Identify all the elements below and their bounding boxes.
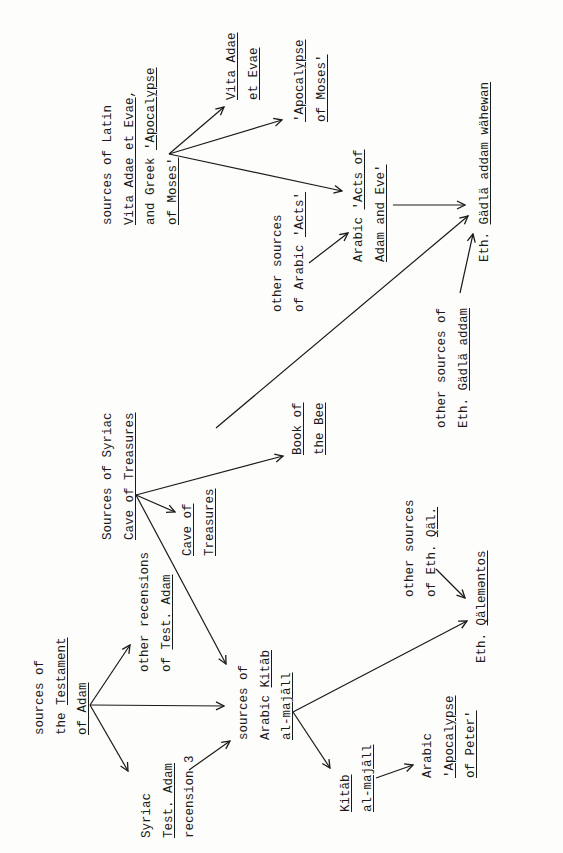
underlined-title: of Moses' [166, 157, 180, 225]
node-line: other sources [268, 192, 290, 312]
stemma-diagram: sources ofthe Testamentof AdamSyriacTest… [0, 0, 563, 853]
node-text: Sources of Syriac [101, 412, 115, 540]
node-line: of Moses' [163, 67, 185, 225]
node-line: other sources [400, 499, 422, 597]
node-line: Sources of Syriac [98, 412, 120, 540]
node-line: Arabic Kitāb [256, 650, 278, 740]
arrow-other-sources-gadla-to-eth-gadla [460, 234, 473, 293]
node-testament-sources: sources ofthe Testamentof Adam [30, 637, 95, 735]
underlined-title: Test. Adam [162, 763, 176, 838]
node-line: the Testament [52, 637, 74, 735]
underlined-title: 'Apocalypse [144, 67, 158, 150]
node-text: other recensions [138, 552, 152, 672]
underlined-title: Treasures [203, 488, 217, 556]
node-cave-of-treasures: Cave ofTreasures [178, 488, 221, 556]
node-line: Eth. Gädlä addam wähewan [475, 82, 497, 262]
node-line: al-majāll [277, 650, 299, 740]
underlined-title: al-majāll [361, 744, 375, 812]
node-other-recensions: other recensionsof Test. Adam [135, 552, 178, 672]
node-text: and Greek [144, 150, 158, 225]
node-line: the Bee [310, 402, 332, 455]
node-kitab-majall-sources: sources ofArabic Kitābal-majāll [234, 650, 299, 740]
node-text: sources of [237, 665, 251, 740]
arrow-syriac-cave-sources-to-eth-gadla [216, 216, 468, 428]
arrow-syriac-cave-sources-to-cave-of-treasures [136, 495, 175, 512]
node-text: Arabic [421, 733, 435, 778]
node-kitab-majall: Kitābal-majāll [336, 744, 379, 812]
node-line: Vita Adae et Evae, [120, 67, 142, 225]
underlined-title: Cave of Treasures [123, 412, 137, 540]
node-line: Eth. Qälemәntos [472, 550, 494, 663]
underlined-title: Qäl. [425, 507, 439, 537]
node-line: sources of [234, 650, 256, 740]
node-line: Eth. Gädlä addam [454, 308, 476, 428]
node-line: Arabic 'Acts of [349, 149, 371, 262]
node-line: Arabic [418, 695, 440, 778]
node-line: Kitāb [336, 744, 358, 812]
node-text: the [55, 705, 69, 735]
node-line: et Evae [244, 32, 266, 100]
node-text: Eth. [475, 625, 489, 663]
node-line: and Greek 'Apocalypse [141, 67, 163, 225]
node-arabic-acts: Arabic 'Acts ofAdam and Eve' [349, 149, 392, 262]
node-text: Syriac [140, 793, 154, 838]
underlined-title: Cave of [181, 503, 195, 556]
node-line: Adam and Eve' [371, 149, 393, 262]
arrow-latin-vita-sources-to-arabic-acts [169, 154, 342, 191]
node-line: of Moses' [312, 39, 334, 122]
node-text: other sources of [435, 308, 449, 428]
arrow-latin-vita-sources-to-apoc-moses [169, 120, 282, 154]
underlined-title: Kitāb [259, 650, 273, 688]
underlined-title: 'Apocalypse [443, 695, 457, 778]
node-line: Vita Adae [222, 32, 244, 100]
underlined-title: Gädlä addam [457, 308, 471, 391]
node-line: of Test. Adam [157, 552, 179, 672]
node-syriac-test-adam: SyriacTest. Adamrecension 3 [137, 755, 202, 838]
node-latin-vita-sources: sources of LatinVita Adae et Evae,and Gr… [98, 67, 184, 225]
node-line: of Arabic 'Acts' [290, 192, 312, 312]
node-line: other sources of [432, 308, 454, 428]
underlined-title: Testament [55, 637, 69, 705]
node-text: of Arabic [293, 237, 307, 312]
node-line: Syriac [137, 755, 159, 838]
underlined-title: Vita Adae [225, 32, 239, 100]
node-book-of-bee: Book ofthe Bee [288, 402, 331, 455]
underlined-title: Gädlä addam wähewan [478, 82, 492, 225]
node-line: of Peter' [461, 695, 483, 778]
arrow-testament-sources-to-syriac-test-adam [90, 705, 128, 771]
node-text: other sources [271, 214, 285, 312]
node-text: Arabic [259, 687, 273, 740]
underlined-title: of Adam [76, 682, 90, 735]
node-text: Eth. [457, 390, 471, 428]
underlined-title: Qälemәntos [475, 550, 489, 625]
node-text: other sources [403, 499, 417, 597]
underlined-title: Vita Adae et Evae [123, 97, 137, 225]
node-text: sources of Latin [101, 105, 115, 225]
node-other-sources-gadla: other sources ofEth. Gädlä addam [432, 308, 475, 428]
underlined-title: et Evae [247, 47, 261, 100]
arrow-testament-sources-to-kitab-majall-sources [90, 705, 224, 706]
node-line: Cave of Treasures [120, 412, 142, 540]
node-line: recension 3 [180, 755, 202, 838]
underlined-title: al-majāll [280, 672, 294, 740]
node-line: of Eth. Qäl. [422, 499, 444, 597]
underlined-title: Adam and Eve' [374, 164, 388, 262]
node-line: al-majāll [358, 744, 380, 812]
node-line: of Adam [73, 637, 95, 735]
underlined-title: 'Acts' [293, 192, 307, 237]
node-text: of [160, 649, 174, 672]
node-line: Treasures [200, 488, 222, 556]
node-line: other recensions [135, 552, 157, 672]
node-eth-qalementos: Eth. Qälemәntos [472, 550, 494, 663]
node-eth-gadla: Eth. Gädlä addam wähewan [475, 82, 497, 262]
node-other-sources-eth-qal: other sourcesof Eth. Qäl. [400, 499, 443, 597]
node-syriac-cave-sources: Sources of SyriacCave of Treasures [98, 412, 141, 540]
node-line: Test. Adam [159, 755, 181, 838]
arrow-kitab-majall-to-arabic-apoc-peter [376, 765, 413, 778]
node-arabic-apoc-peter: Arabic'Apocalypseof Peter' [418, 695, 483, 778]
arrow-kitab-majall-sources-to-kitab-majall [293, 712, 330, 768]
underlined-title: Test. Adam [160, 574, 174, 649]
underlined-title: Book of [291, 402, 305, 455]
node-line: Cave of [178, 488, 200, 556]
underlined-title: 'Apocalypse [293, 39, 307, 122]
